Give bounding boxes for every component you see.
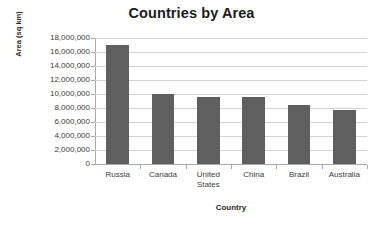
y-axis-tick-label: 18,000,000: [22, 34, 90, 42]
y-axis-tick-mark: [91, 136, 95, 137]
y-axis-tick-mark: [91, 66, 95, 67]
y-axis-tick-mark: [91, 150, 95, 151]
y-axis-tick-label: 16,000,000: [22, 48, 90, 56]
x-axis-tick-label: Canada: [140, 170, 185, 180]
bar: [197, 97, 220, 164]
y-axis-tick-mark: [91, 164, 95, 165]
y-axis-tick-label: 4,000,000: [22, 132, 90, 140]
bar: [152, 94, 175, 164]
y-axis-tick-mark: [91, 122, 95, 123]
bar-chart: Countries by Area Area (sq km) 02,000,00…: [0, 0, 383, 226]
x-axis-tick-mark: [140, 165, 141, 169]
y-axis-tick-mark: [91, 38, 95, 39]
x-axis-tick-mark: [322, 165, 323, 169]
y-axis-tick-mark: [91, 94, 95, 95]
x-axis-tick-mark: [367, 165, 368, 169]
y-axis-tick-mark: [91, 52, 95, 53]
bar: [242, 97, 265, 164]
y-axis-tick-label: 12,000,000: [22, 76, 90, 84]
x-axis-title: Country: [95, 203, 367, 212]
x-axis-tick-label: Australia: [322, 170, 367, 180]
bar: [333, 110, 356, 164]
x-axis-tick-label: China: [231, 170, 276, 180]
x-axis-tick-mark: [231, 165, 232, 169]
y-axis-tick-label: 0: [22, 160, 90, 168]
x-axis-tick-label: Russia: [95, 170, 140, 180]
bar: [106, 45, 129, 164]
y-axis-tick-label: 14,000,000: [22, 62, 90, 70]
x-axis-tick-label: United States: [186, 170, 231, 189]
bar: [288, 105, 311, 165]
y-axis-tick-label: 6,000,000: [22, 118, 90, 126]
bar-series: [95, 38, 367, 164]
x-axis-tick-mark: [186, 165, 187, 169]
y-axis-tick-mark: [91, 108, 95, 109]
y-axis-tick-label: 10,000,000: [22, 90, 90, 98]
x-axis-tick-mark: [276, 165, 277, 169]
plot-area: [95, 38, 367, 164]
y-axis-tick-label: 2,000,000: [22, 146, 90, 154]
y-axis-tick-labels: 02,000,0004,000,0006,000,0008,000,00010,…: [22, 0, 90, 226]
x-axis-tick-labels: RussiaCanadaUnited StatesChinaBrazilAust…: [95, 170, 367, 196]
y-axis-tick-mark: [91, 80, 95, 81]
x-axis-tick-label: Brazil: [276, 170, 321, 180]
y-axis-tick-label: 8,000,000: [22, 104, 90, 112]
